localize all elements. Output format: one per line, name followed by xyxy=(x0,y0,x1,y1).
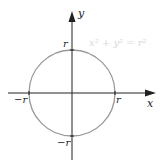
circle-equation: x² + y² = r² xyxy=(89,37,147,48)
intercept-top-label: r xyxy=(63,38,69,49)
x-axis-arrow-icon xyxy=(145,90,156,97)
diagram-canvas: y x r r −r −r x² + y² = r² xyxy=(0,0,166,165)
intercept-right-label: r xyxy=(116,94,122,105)
y-axis-label: y xyxy=(77,7,85,20)
intercept-bottom-label: −r xyxy=(57,137,71,148)
x-axis-label: x xyxy=(147,97,154,110)
y-axis-arrow-icon xyxy=(69,11,76,22)
intercept-left-label: −r xyxy=(14,94,28,105)
circle-diagram: y x r r −r −r x² + y² = r² xyxy=(0,0,166,165)
